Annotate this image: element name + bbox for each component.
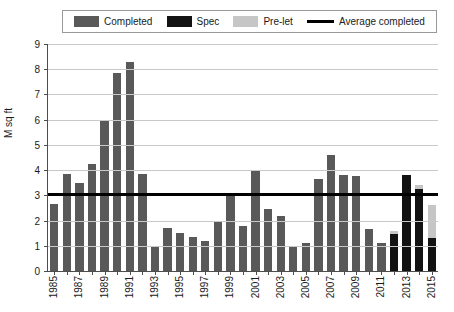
- gridline: [48, 120, 438, 121]
- average-completed-line: [48, 193, 438, 196]
- x-axis-label-1991: 1991: [124, 276, 135, 298]
- y-axis-tick-mark: [44, 120, 48, 121]
- bar-segment-spec-2015: [428, 238, 436, 271]
- bar-segment-completed-1988: [88, 164, 96, 271]
- bar-1991: [126, 62, 134, 271]
- chart-legend: CompletedSpecPre-letAverage completed: [62, 10, 437, 33]
- bar-1988: [88, 164, 96, 271]
- bar-2014: [415, 185, 423, 271]
- legend-item-label: Pre-let: [263, 16, 292, 27]
- legend-item-label: Completed: [104, 16, 152, 27]
- bar-1992: [138, 174, 146, 271]
- legend-average-completed: Average completed: [307, 16, 425, 27]
- legend-item-label: Spec: [197, 16, 220, 27]
- legend-prelet: Pre-let: [233, 16, 292, 27]
- bar-segment-completed-2011: [377, 243, 385, 271]
- y-axis-tick-label: 8: [26, 64, 40, 75]
- x-axis-tick-mark: [432, 271, 433, 275]
- y-axis-tick-label: 3: [26, 190, 40, 201]
- bar-segment-completed-1985: [50, 204, 58, 271]
- x-axis-tick-mark: [243, 271, 244, 275]
- bar-2012: [390, 231, 398, 271]
- x-axis-tick-mark: [193, 271, 194, 275]
- bar-segment-completed-2007: [327, 155, 335, 271]
- legend-line-marker: [307, 20, 334, 23]
- bar-segment-completed-2002: [264, 209, 272, 271]
- x-axis-label-2001: 2001: [250, 276, 261, 298]
- gridline: [48, 145, 438, 146]
- bar-2008: [339, 175, 347, 271]
- y-axis-tick-label: 2: [26, 215, 40, 226]
- x-axis-tick-mark: [168, 271, 169, 275]
- x-axis-label-1985: 1985: [48, 276, 59, 298]
- bar-segment-completed-1986: [63, 174, 71, 271]
- bar-chart: CompletedSpecPre-letAverage completed M …: [0, 0, 454, 312]
- y-axis-tick-label: 4: [26, 165, 40, 176]
- bar-segment-prelet-2012: [390, 231, 398, 235]
- bar-1994: [163, 228, 171, 271]
- bar-2003: [277, 216, 285, 271]
- gridline: [48, 69, 438, 70]
- bar-1993: [151, 246, 159, 271]
- legend-item-label: Average completed: [339, 16, 425, 27]
- x-axis-tick-mark: [155, 271, 156, 275]
- bar-segment-completed-1992: [138, 174, 146, 271]
- x-axis-tick-mark: [79, 271, 80, 275]
- y-axis-tick-mark: [44, 145, 48, 146]
- bar-segment-completed-1996: [189, 237, 197, 271]
- y-axis-tick-label: 0: [26, 266, 40, 277]
- bar-segment-spec-2013: [402, 175, 410, 271]
- bar-segment-completed-1999: [226, 195, 234, 271]
- legend-color-swatch: [167, 16, 192, 27]
- bar-2002: [264, 209, 272, 271]
- plot-area: [47, 44, 438, 272]
- bar-2010: [365, 229, 373, 271]
- gridline: [48, 170, 438, 171]
- x-axis-tick-mark: [293, 271, 294, 275]
- x-axis-tick-mark: [381, 271, 382, 275]
- x-axis-tick-mark: [142, 271, 143, 275]
- bar-segment-completed-1994: [163, 228, 171, 271]
- bar-1985: [50, 204, 58, 271]
- bar-segment-completed-2005: [302, 243, 310, 271]
- bar-segment-completed-2009: [352, 176, 360, 271]
- y-axis-tick-label: 5: [26, 139, 40, 150]
- y-axis-tick-mark: [44, 69, 48, 70]
- bar-segment-prelet-2015: [428, 205, 436, 238]
- bar-2009: [352, 176, 360, 271]
- bar-segment-completed-2000: [239, 226, 247, 271]
- bar-segment-completed-2010: [365, 229, 373, 271]
- bar-1996: [189, 237, 197, 271]
- x-axis-label-2013: 2013: [401, 276, 412, 298]
- y-axis-tick-label: 9: [26, 39, 40, 50]
- x-axis-label-1999: 1999: [224, 276, 235, 298]
- bar-segment-completed-1995: [176, 233, 184, 271]
- x-axis-tick-mark: [218, 271, 219, 275]
- x-axis-tick-mark: [419, 271, 420, 275]
- x-axis-label-2005: 2005: [300, 276, 311, 298]
- bar-2007: [327, 155, 335, 271]
- bar-segment-spec-2014: [415, 189, 423, 271]
- bar-2013: [402, 175, 410, 271]
- x-axis-tick-mark: [356, 271, 357, 275]
- x-axis-label-2009: 2009: [350, 276, 361, 298]
- x-axis-tick-mark: [394, 271, 395, 275]
- x-axis-tick-mark: [318, 271, 319, 275]
- x-axis-tick-mark: [256, 271, 257, 275]
- y-axis-tick-mark: [44, 221, 48, 222]
- x-axis-label-2015: 2015: [426, 276, 437, 298]
- x-axis-tick-mark: [331, 271, 332, 275]
- bar-1990: [113, 73, 121, 271]
- x-axis-tick-mark: [230, 271, 231, 275]
- x-axis-label-2011: 2011: [375, 276, 386, 298]
- x-axis-tick-mark: [281, 271, 282, 275]
- x-axis-label-1987: 1987: [73, 276, 84, 298]
- y-axis-tick-mark: [44, 271, 48, 272]
- x-axis-tick-mark: [205, 271, 206, 275]
- gridline: [48, 94, 438, 95]
- bar-segment-completed-2004: [289, 247, 297, 271]
- legend-completed: Completed: [74, 16, 152, 27]
- x-axis-tick-mark: [130, 271, 131, 275]
- bar-2011: [377, 243, 385, 271]
- bar-segment-completed-1991: [126, 62, 134, 271]
